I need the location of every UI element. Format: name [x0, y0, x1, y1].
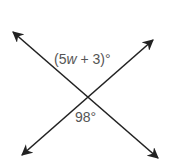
- top-angle-label: (5w + 3)°: [54, 52, 111, 66]
- top-angle-prefix: (5: [54, 51, 66, 67]
- bottom-angle-label: 98°: [75, 110, 96, 124]
- top-angle-suffix: + 3)°: [77, 51, 111, 67]
- top-angle-variable: w: [66, 51, 76, 67]
- intersecting-lines-diagram: [0, 0, 173, 159]
